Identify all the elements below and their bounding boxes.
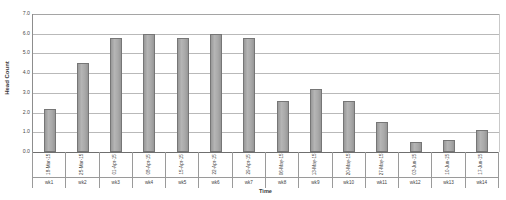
bar-chart: Head Count 7.06.05.04.03.02.01.00.0 18-M… (0, 0, 506, 200)
bar[interactable] (77, 63, 89, 152)
x-axis-week-label: wk8 (278, 181, 286, 186)
bar-slot (432, 14, 465, 152)
x-axis-week-label: wk6 (211, 181, 219, 186)
bar[interactable] (210, 34, 222, 152)
x-axis-week-cell: wk7 (233, 178, 265, 188)
x-axis-week-cell: wk8 (266, 178, 298, 188)
x-axis-date-label: 01-Apr-15 (113, 154, 118, 174)
x-axis-week-cell: wk13 (432, 178, 464, 188)
y-axis-tick-label: 1.0 (23, 130, 30, 135)
y-axis-tick-label: 5.0 (23, 51, 30, 56)
x-axis-week-cell: wk14 (466, 178, 498, 188)
x-axis-category-cell: 10-Jun-15wk13 (432, 152, 465, 188)
x-axis-week-cell: wk1 (33, 178, 65, 188)
x-axis-week-cell: wk2 (66, 178, 98, 188)
bar-slot (266, 14, 299, 152)
x-axis-week-cell: wk5 (166, 178, 198, 188)
bar[interactable] (343, 101, 355, 152)
x-axis-date-cell: 17-Jun-15 (466, 152, 498, 178)
x-axis-week-cell: wk9 (299, 178, 331, 188)
bar[interactable] (110, 38, 122, 152)
bar[interactable] (243, 38, 255, 152)
bar-slot (133, 14, 166, 152)
x-axis-week-cell: wk3 (100, 178, 132, 188)
bar-slot (233, 14, 266, 152)
bar-slot (366, 14, 399, 152)
x-axis-categories: 18-Mar-15wk125-Mar-15wk201-Apr-15wk308-A… (32, 152, 499, 188)
x-axis-title: Time (32, 188, 499, 194)
bar-slot (100, 14, 133, 152)
bar[interactable] (177, 38, 189, 152)
bar-slot (466, 14, 499, 152)
x-axis-week-cell: wk10 (333, 178, 365, 188)
bar-slot (166, 14, 199, 152)
bar[interactable] (476, 130, 488, 152)
y-axis-tick-label: 3.0 (23, 90, 30, 95)
y-axis-tick-label: 4.0 (23, 71, 30, 76)
x-axis-date-cell: 27-May-15 (366, 152, 398, 178)
x-axis-week-label: wk2 (78, 181, 86, 186)
bar[interactable] (277, 101, 289, 152)
x-axis-category-cell: 03-Jun-15wk12 (399, 152, 432, 188)
bar-slot (299, 14, 332, 152)
bar-slot (333, 14, 366, 152)
bar[interactable] (410, 142, 422, 152)
bar-slot (399, 14, 432, 152)
bar-slot (33, 14, 66, 152)
x-axis-week-label: wk11 (377, 181, 387, 186)
x-axis-category-cell: 20-May-15wk10 (333, 152, 366, 188)
x-axis-week-cell: wk6 (199, 178, 231, 188)
bars-layer (33, 14, 499, 152)
x-axis-week-label: wk10 (343, 181, 354, 186)
x-axis-date-label: 17-Jun-15 (480, 154, 485, 175)
x-axis-category-cell: 27-May-15wk11 (366, 152, 399, 188)
x-axis-category-cell: 06-May-15wk8 (266, 152, 299, 188)
x-axis-date-cell: 29-Apr-15 (233, 152, 265, 178)
x-axis-category-cell: 17-Jun-15wk14 (466, 152, 499, 188)
x-axis-category-cell: 13-May-15wk9 (299, 152, 332, 188)
x-axis-week-cell: wk4 (133, 178, 165, 188)
x-axis-date-label: 03-Jun-15 (413, 154, 418, 175)
plot-area (32, 14, 500, 152)
x-axis-category-cell: 22-Apr-15wk6 (199, 152, 232, 188)
x-axis-date-cell: 01-Apr-15 (100, 152, 132, 178)
x-axis-category-cell: 01-Apr-15wk3 (100, 152, 133, 188)
x-axis-date-cell: 08-Apr-15 (133, 152, 165, 178)
y-axis-title-label: Head Count (4, 61, 10, 95)
x-axis-date-cell: 22-Apr-15 (199, 152, 231, 178)
x-axis-date-label: 10-Jun-15 (446, 154, 451, 175)
x-axis-date-cell: 03-Jun-15 (399, 152, 431, 178)
x-axis-date-label: 20-May-15 (346, 154, 351, 176)
bar[interactable] (44, 109, 56, 152)
y-axis-title: Head Count (0, 0, 14, 155)
y-axis-tick-label: 0.0 (23, 149, 30, 154)
bar[interactable] (310, 89, 322, 152)
x-axis-week-label: wk12 (410, 181, 421, 186)
x-axis-category-cell: 18-Mar-15wk1 (33, 152, 66, 188)
x-axis-date-label: 06-May-15 (280, 154, 285, 176)
x-axis-category-cell: 15-Apr-15wk5 (166, 152, 199, 188)
x-axis-date-cell: 06-May-15 (266, 152, 298, 178)
x-axis-date-cell: 15-Apr-15 (166, 152, 198, 178)
bar[interactable] (443, 140, 455, 152)
x-axis-date-cell: 25-Mar-15 (66, 152, 98, 178)
x-axis-date-cell: 20-May-15 (333, 152, 365, 178)
y-axis-tick-label: 7.0 (23, 11, 30, 16)
x-axis-date-label: 27-May-15 (380, 154, 385, 176)
bar[interactable] (376, 122, 388, 152)
x-axis-date-label: 13-May-15 (313, 154, 318, 176)
x-axis-week-label: wk4 (145, 181, 153, 186)
x-axis-date-cell: 10-Jun-15 (432, 152, 464, 178)
x-axis-week-label: wk13 (443, 181, 454, 186)
bar-slot (199, 14, 232, 152)
x-axis-date-label: 22-Apr-15 (213, 154, 218, 174)
y-axis-tick-label: 6.0 (23, 31, 30, 36)
x-axis-date-cell: 18-Mar-15 (33, 152, 65, 178)
x-axis-date-label: 15-Apr-15 (180, 154, 185, 174)
bar[interactable] (143, 34, 155, 152)
x-axis-category-cell: 08-Apr-15wk4 (133, 152, 166, 188)
x-axis-week-label: wk5 (178, 181, 186, 186)
y-axis-tick-labels: 7.06.05.04.03.02.01.00.0 (13, 10, 31, 155)
x-axis-week-label: wk9 (311, 181, 319, 186)
x-axis-week-label: wk14 (476, 181, 487, 186)
